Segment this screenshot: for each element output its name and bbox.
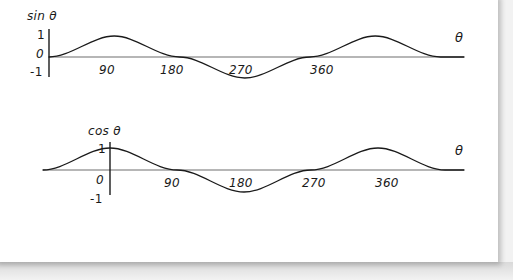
sine-y-tick-0: 0 xyxy=(36,47,44,61)
cosine-x-tick-180: 180 xyxy=(229,176,253,190)
cosine-x-tick-90: 90 xyxy=(164,176,180,190)
sine-plot xyxy=(0,0,513,110)
graphs-container: sin θ 1 0 -1 90 180 270 360 θ cos θ 1 0 … xyxy=(0,0,513,280)
sine-x-tick-90: 90 xyxy=(99,63,115,77)
cosine-y-tick-minus1: -1 xyxy=(90,192,103,206)
sine-x-tick-270: 270 xyxy=(229,63,253,77)
cosine-y-axis-label: cos θ xyxy=(88,124,121,138)
screenshot-root: sin θ 1 0 -1 90 180 270 360 θ cos θ 1 0 … xyxy=(0,0,513,280)
cosine-x-tick-270: 270 xyxy=(302,176,326,190)
cosine-x-axis-label: θ xyxy=(455,143,463,158)
cosine-plot xyxy=(0,110,513,230)
sine-x-tick-360: 360 xyxy=(310,63,334,77)
sine-y-axis-label: sin θ xyxy=(27,9,57,23)
sine-y-tick-1: 1 xyxy=(37,28,45,42)
sine-y-tick-minus1: -1 xyxy=(30,65,43,79)
cosine-x-tick-360: 360 xyxy=(375,176,399,190)
cosine-y-tick-0: 0 xyxy=(96,173,104,187)
cosine-y-tick-1: 1 xyxy=(98,142,106,156)
sine-x-tick-180: 180 xyxy=(160,63,184,77)
sine-x-axis-label: θ xyxy=(455,30,463,45)
